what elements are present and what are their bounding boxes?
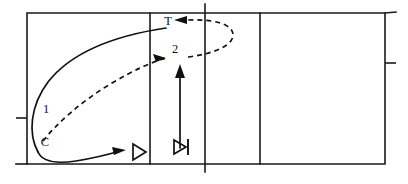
- curve-dashed-loop: [180, 20, 233, 57]
- trajectory-figure: T 2 1 C: [0, 0, 408, 184]
- figure-canvas: T 2 1 C: [0, 0, 408, 184]
- frame-top-overshoot: [385, 12, 396, 13]
- figure-frame: [27, 13, 385, 164]
- arrowhead-vertical-approach: [175, 64, 185, 78]
- label-start-point: C: [41, 135, 49, 149]
- label-target-point: T: [164, 14, 172, 28]
- curve-dashed-two: [43, 58, 166, 141]
- label-curve-one: 1: [43, 102, 49, 116]
- label-curve-two: 2: [172, 42, 178, 56]
- triangle-right-open-icon: [133, 144, 146, 160]
- arrowhead-loop: [174, 16, 187, 24]
- arrowhead-lower-exit: [112, 147, 126, 155]
- curve-lower-exit: [38, 151, 120, 162]
- curve-solid-one: [32, 28, 166, 152]
